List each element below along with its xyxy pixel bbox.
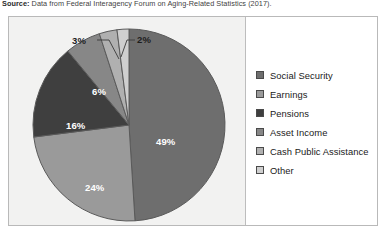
legend-label: Pensions bbox=[270, 108, 309, 119]
pie-slice-social-security bbox=[129, 29, 225, 221]
pie-svg bbox=[9, 17, 245, 225]
legend-swatch-other bbox=[256, 166, 264, 174]
legend-swatch-pensions bbox=[256, 109, 264, 117]
legend-label: Social Security bbox=[270, 70, 333, 81]
legend-item-other[interactable]: Other bbox=[256, 161, 376, 179]
legend-item-earnings[interactable]: Earnings bbox=[256, 85, 376, 103]
slice-value-social-security: 49% bbox=[156, 136, 175, 147]
legend-item-pensions[interactable]: Pensions bbox=[256, 104, 376, 122]
legend-panel: Social SecurityEarningsPensionsAsset Inc… bbox=[246, 17, 377, 225]
slice-value-other: 2% bbox=[137, 34, 151, 45]
legend-swatch-cash-public-assistance bbox=[256, 147, 264, 155]
legend-label: Asset Income bbox=[270, 127, 327, 138]
source-caption: Source: Data from Federal Interagency Fo… bbox=[2, 0, 387, 9]
figure-frame: 49% 24% 16% 6% 3% 2% Social SecurityEarn… bbox=[8, 16, 378, 226]
slice-value-earnings: 24% bbox=[85, 182, 104, 193]
legend-list: Social SecurityEarningsPensionsAsset Inc… bbox=[256, 66, 376, 180]
legend-label: Cash Public Assistance bbox=[270, 146, 369, 157]
pie-slice-group bbox=[33, 29, 225, 221]
source-text: Data from Federal Interagency Forum on A… bbox=[30, 0, 272, 8]
legend-swatch-social-security bbox=[256, 71, 264, 79]
figure-stage: Source: Data from Federal Interagency Fo… bbox=[0, 0, 389, 241]
legend-item-social-security[interactable]: Social Security bbox=[256, 66, 376, 84]
slice-value-pensions: 16% bbox=[66, 120, 85, 131]
legend-label: Other bbox=[270, 165, 294, 176]
slice-value-cash-public-assistance: 3% bbox=[72, 35, 86, 46]
slice-value-asset-income: 6% bbox=[92, 86, 106, 97]
legend-label: Earnings bbox=[270, 89, 307, 100]
legend-swatch-earnings bbox=[256, 90, 264, 98]
legend-item-cash-public-assistance[interactable]: Cash Public Assistance bbox=[256, 142, 376, 160]
legend-item-asset-income[interactable]: Asset Income bbox=[256, 123, 376, 141]
pie-chart bbox=[9, 17, 245, 225]
pie-chart-panel: 49% 24% 16% 6% 3% 2% bbox=[9, 17, 245, 225]
legend-swatch-asset-income bbox=[256, 128, 264, 136]
pie-slice-earnings bbox=[34, 125, 135, 221]
source-label: Source: bbox=[2, 0, 30, 8]
